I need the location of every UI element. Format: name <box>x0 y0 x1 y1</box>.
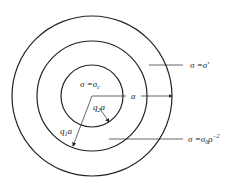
concentric-circles-diagram: a q2a q1a σ =σc σ =σ′ σ =σ0ρ−2 <box>0 0 236 187</box>
label-inner-region: σ =σc <box>80 79 100 90</box>
label-radius-q1a: q1a <box>60 126 73 137</box>
radius-q1a-arrow <box>73 96 92 146</box>
label-radius-a: a <box>131 91 136 101</box>
label-middle-region: σ =σ0ρ−2 <box>188 133 220 145</box>
label-radius-q2a: q2a <box>93 102 106 113</box>
label-outer-region: σ =σ′ <box>190 60 210 70</box>
